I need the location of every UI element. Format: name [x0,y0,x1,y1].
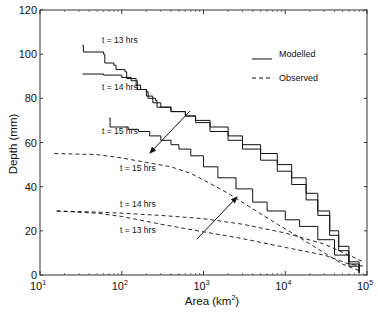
x-tick-label: 103 [193,279,209,292]
y-tick-label: 80 [25,92,37,104]
y-axis-title: Depth (mm) [7,113,19,174]
x-axis-title: Area (km2) [185,294,240,307]
curve-label: t = 13 hrs [120,225,156,235]
y-tick-label: 40 [25,181,37,193]
y-tick-label: 60 [25,137,37,149]
x-tick-label: 105 [357,279,373,292]
y-tick-label: 20 [25,225,37,237]
curve-label: t = 15 hrs [102,126,138,136]
curve-label: t = 14 hrs [120,199,156,209]
curve-label: t = 15 hrs [120,163,156,173]
x-tick-label: 102 [112,279,128,292]
x-tick-label: 104 [275,279,291,292]
legend-modelled-label: Modelled [279,49,316,59]
x-tick-label: 101 [30,279,46,292]
depth-area-chart: 020406080100120 101102103104105 t = 13 h… [0,0,378,312]
curve-label: t = 14 hrs [102,82,138,92]
legend-observed-label: Observed [279,73,318,83]
y-tick-label: 120 [19,4,37,16]
y-tick-label: 100 [19,48,37,60]
curve-label: t = 13 hrs [102,35,138,45]
